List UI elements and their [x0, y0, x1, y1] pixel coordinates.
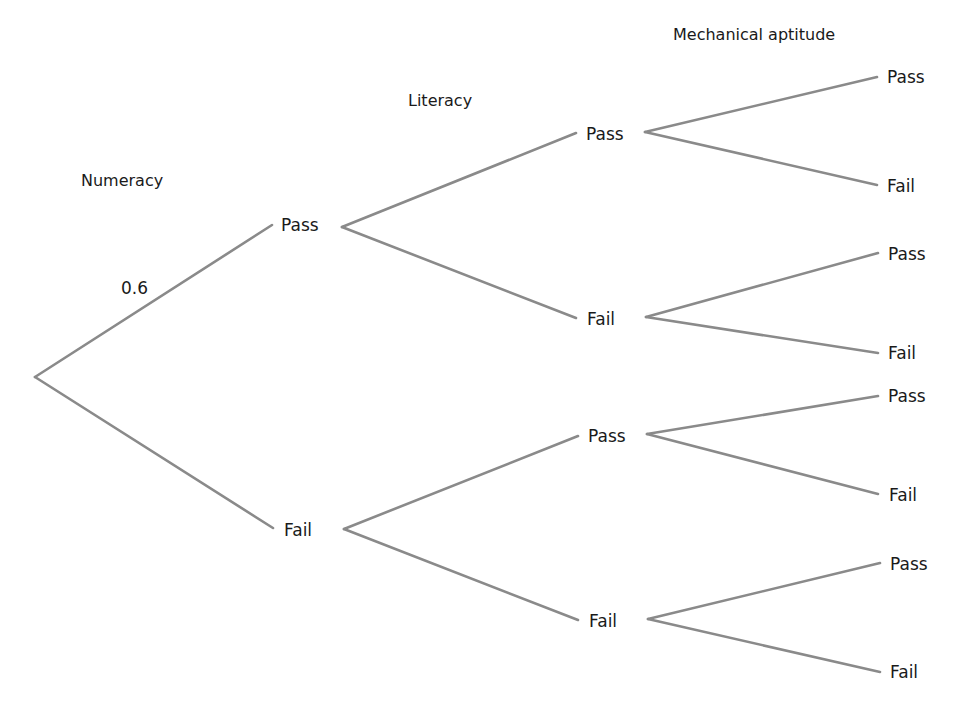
branch-mech-fail-4: [648, 619, 880, 672]
branch-mech-pass-2: [646, 253, 878, 317]
branch-literacy-pass-1: [342, 133, 576, 227]
node-mech-fail-3: Fail: [889, 485, 917, 505]
header-mechanical-aptitude: Mechanical aptitude: [673, 25, 835, 45]
header-numeracy: Numeracy: [81, 171, 163, 191]
node-literacy-fail-1: Fail: [587, 309, 615, 329]
node-mech-pass-3: Pass: [888, 386, 926, 406]
node-mech-pass-4: Pass: [890, 554, 928, 574]
tree-diagram: Numeracy Literacy Mechanical aptitude 0.…: [0, 0, 968, 705]
tree-branches: [0, 0, 968, 705]
node-literacy-fail-2: Fail: [589, 611, 617, 631]
node-literacy-pass-1: Pass: [586, 124, 624, 144]
node-mech-fail-2: Fail: [888, 343, 916, 363]
branch-literacy-fail-1: [342, 227, 576, 318]
branch-mech-pass-3: [647, 396, 878, 434]
branch-literacy-pass-2: [344, 436, 578, 529]
node-mech-fail-4: Fail: [890, 662, 918, 682]
node-mech-pass-1: Pass: [887, 67, 925, 87]
node-numeracy-fail: Fail: [284, 520, 312, 540]
branch-mech-fail-2: [646, 317, 878, 353]
node-mech-fail-1: Fail: [887, 176, 915, 196]
node-mech-pass-2: Pass: [888, 244, 926, 264]
branch-numeracy-fail: [35, 377, 273, 528]
branch-mech-pass-4: [648, 563, 880, 619]
header-literacy: Literacy: [408, 91, 472, 111]
branch-mech-fail-3: [647, 434, 878, 494]
probability-numeracy-pass: 0.6: [121, 278, 148, 298]
branch-mech-pass-1: [645, 77, 877, 132]
branch-numeracy-pass: [35, 225, 272, 377]
branch-literacy-fail-2: [344, 529, 578, 620]
node-literacy-pass-2: Pass: [588, 426, 626, 446]
node-numeracy-pass: Pass: [281, 215, 319, 235]
branch-mech-fail-1: [645, 132, 877, 185]
